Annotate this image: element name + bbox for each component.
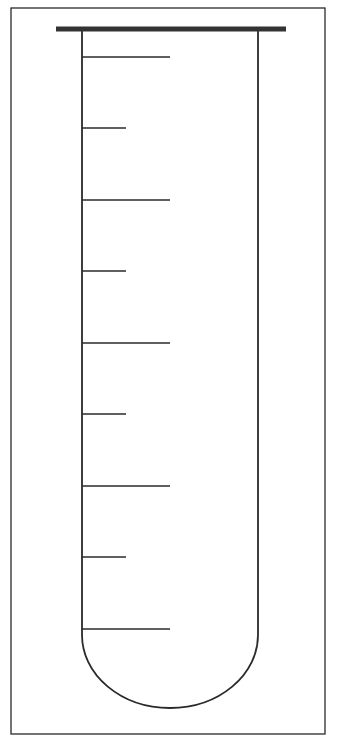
test-tube-diagram — [0, 0, 337, 738]
test-tube-outline — [82, 29, 258, 708]
graduation-ticks — [82, 57, 170, 629]
outer-frame — [11, 8, 325, 734]
